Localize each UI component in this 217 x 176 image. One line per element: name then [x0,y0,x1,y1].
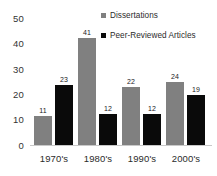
bar-value-label: 12 [143,105,161,113]
bar-dissertations [78,38,96,145]
y-tick-label: 0 [2,141,24,151]
bar-peer-reviewed [187,95,205,145]
bar-chart: 50 40 30 20 10 0 11 23 41 12 22 12 [0,0,217,176]
legend: Dissertations Peer-Reviewed Articles [101,9,196,42]
x-tick-label: 1990's [120,153,164,165]
bar-peer-reviewed [55,85,73,145]
bar-group: 11 23 [34,14,74,145]
x-axis-baseline [30,145,212,146]
legend-swatch-icon [101,33,106,38]
bar-value-label: 11 [34,107,52,115]
x-tick-label: 2000's [164,153,208,165]
y-tick-label: 30 [2,65,24,75]
bar-dissertations [166,82,184,145]
y-tick-label: 40 [2,39,24,49]
y-axis: 50 40 30 20 10 0 [2,0,24,176]
bar-value-label: 12 [99,105,117,113]
legend-entry-dissertations: Dissertations [101,9,196,22]
bar-peer-reviewed [143,114,161,145]
x-axis: 1970's 1980's 1990's 2000's [30,153,212,169]
y-tick-label: 10 [2,115,24,125]
bar-dissertations [34,116,52,145]
legend-entry-peer-reviewed: Peer-Reviewed Articles [101,29,196,42]
y-tick-label: 50 [2,14,24,24]
bar-dissertations [122,87,140,145]
legend-label: Dissertations [110,11,158,20]
bar-value-label: 24 [166,73,184,81]
bar-value-label: 22 [122,78,140,86]
bar-value-label: 23 [55,76,73,84]
legend-swatch-icon [101,13,106,18]
x-tick-label: 1970's [32,153,76,165]
bar-value-label: 41 [78,29,96,37]
y-tick-label: 20 [2,90,24,100]
bar-peer-reviewed [99,114,117,145]
x-tick-label: 1980's [76,153,120,165]
legend-label: Peer-Reviewed Articles [110,31,196,40]
bar-value-label: 19 [187,86,205,94]
